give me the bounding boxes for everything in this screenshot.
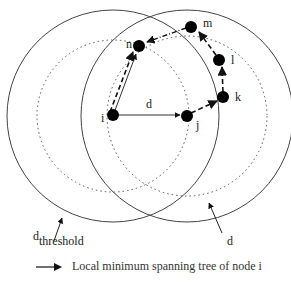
mst-edge-l-m	[199, 32, 216, 55]
node-l	[213, 54, 225, 66]
node-label-i: i	[101, 111, 105, 125]
node-label-l: l	[231, 53, 235, 67]
node-label-j: j	[195, 118, 199, 132]
node-m	[185, 21, 197, 33]
range-pointer	[209, 203, 222, 233]
legend-text: Local minimum spanning tree of node i	[72, 259, 262, 274]
mst-diagram: i j k l m n d dthreshold d	[0, 0, 291, 286]
node-j	[181, 110, 193, 122]
legend: Local minimum spanning tree of node i	[36, 259, 262, 274]
threshold-label: dthreshold	[33, 229, 84, 248]
arrow-right-icon	[36, 263, 62, 271]
edge-label-d: d	[146, 97, 152, 111]
node-k	[217, 91, 229, 103]
node-label-n: n	[126, 37, 132, 51]
node-n	[133, 40, 145, 52]
mst-edge-m-n	[147, 28, 186, 42]
node-label-k: k	[235, 90, 241, 104]
range-label: d	[227, 234, 233, 248]
edge-i-n	[114, 54, 136, 113]
node-label-m: m	[203, 16, 213, 30]
node-i	[107, 109, 119, 121]
mst-edge-k-l	[222, 67, 223, 92]
mst-edge-j-k	[191, 101, 217, 113]
